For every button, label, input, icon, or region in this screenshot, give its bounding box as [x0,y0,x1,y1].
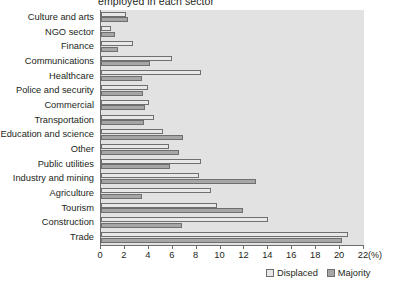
x-tick-label: 12 [238,250,248,260]
bar-majority [101,164,170,169]
bar-majority [101,32,115,37]
bar-displaced [101,144,169,149]
bar-majority [101,17,128,22]
category-label: NGO sector [45,27,94,37]
bar-chart: employed in each sector Culture and arts… [0,0,395,289]
x-tick-label: 20 [334,250,344,260]
chart-title: employed in each sector [98,0,214,7]
category-label: Culture and arts [28,12,94,22]
bar-majority [101,105,145,110]
bar-displaced [101,203,217,208]
bar-majority [101,150,179,155]
legend-label-displaced: Displaced [277,268,318,278]
bar-majority [101,135,183,140]
bar-displaced [101,217,268,222]
x-tick-label: 0 [97,250,102,260]
x-tick-label: 18 [310,250,320,260]
legend-label-majority: Majority [338,268,371,278]
category-axis-labels: Culture and artsNGO sectorFinanceCommuni… [0,10,97,245]
x-tick-label: 6 [169,250,174,260]
category-label: Agriculture [50,188,94,198]
x-tick-label: 14 [262,250,272,260]
category-label: Police and security [16,85,94,95]
bar-displaced [101,100,149,105]
legend-swatch-majority-icon [327,269,335,277]
bar-majority [101,238,342,243]
bar-displaced [101,56,172,61]
x-tick [220,245,221,249]
category-label: Other [71,144,94,154]
category-label: Education and science [0,129,94,139]
bar-displaced [101,115,154,120]
bars-container [101,10,364,245]
bar-majority [101,179,256,184]
x-tick [100,245,101,249]
category-label: Construction [42,217,94,227]
category-label: Trade [70,232,94,242]
category-label: Tourism [61,203,94,213]
x-tick-label: 8 [193,250,198,260]
x-tick [315,245,316,249]
bar-displaced [101,188,211,193]
bar-displaced [101,232,348,237]
bar-majority [101,223,182,228]
bar-majority [101,76,142,81]
bar-displaced [101,159,201,164]
x-tick [148,245,149,249]
category-label: Transportation [34,115,94,125]
x-tick [124,245,125,249]
bar-majority [101,208,243,213]
x-tick [291,245,292,249]
bar-displaced [101,41,133,46]
x-tick-label: 4 [145,250,150,260]
bar-displaced [101,26,111,31]
plot-area [100,10,364,245]
chart-legend: Displaced Majority [266,268,370,278]
category-label: Industry and mining [13,173,94,183]
x-tick [363,245,364,249]
bar-displaced [101,70,201,75]
x-tick-label: 2 [121,250,126,260]
category-label: Public utilities [38,159,94,169]
category-label: Commercial [44,100,94,110]
bar-displaced [101,173,199,178]
bar-displaced [101,12,126,17]
category-label: Communications [25,56,94,66]
legend-swatch-displaced-icon [266,269,274,277]
x-tick-label: 16 [286,250,296,260]
bar-majority [101,61,150,66]
x-tick-label: 22 [358,250,368,260]
bar-majority [101,120,144,125]
bar-majority [101,91,143,96]
x-tick [196,245,197,249]
bar-displaced [101,129,163,134]
x-axis-unit-label: (%) [368,250,382,260]
legend-item-displaced: Displaced [266,268,318,278]
x-tick [243,245,244,249]
x-tick [172,245,173,249]
bar-majority [101,194,142,199]
x-tick [267,245,268,249]
category-label: Healthcare [49,71,94,81]
x-tick [339,245,340,249]
bar-displaced [101,85,148,90]
category-label: Finance [61,41,94,51]
x-axis-line [100,245,364,246]
x-tick-label: 10 [214,250,224,260]
bar-majority [101,47,118,52]
legend-item-majority: Majority [327,268,371,278]
